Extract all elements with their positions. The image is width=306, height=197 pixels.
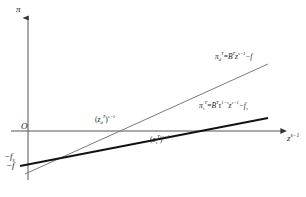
profit-schedule-figure: π zs−1 O −fs −f πdT=BTzs−1−f πsT=BTτ1−sz… <box>0 0 306 197</box>
x-axis-label: zs−1 <box>287 133 299 143</box>
plot-canvas <box>0 0 306 197</box>
tick-label-neg-f: −f <box>6 161 15 172</box>
y-axis-label: π <box>16 5 21 14</box>
supply-equation-label: πsT=BTτ1−szs−1−fs <box>199 101 248 112</box>
supply-root-label: (zsT)s−1 <box>150 135 170 146</box>
supply-line <box>20 118 268 166</box>
demand-equation-label: πdT=BTzs−1−f <box>215 52 252 63</box>
origin-label: O <box>21 122 28 131</box>
demand-root-label: (zdT)s−1 <box>95 115 115 126</box>
